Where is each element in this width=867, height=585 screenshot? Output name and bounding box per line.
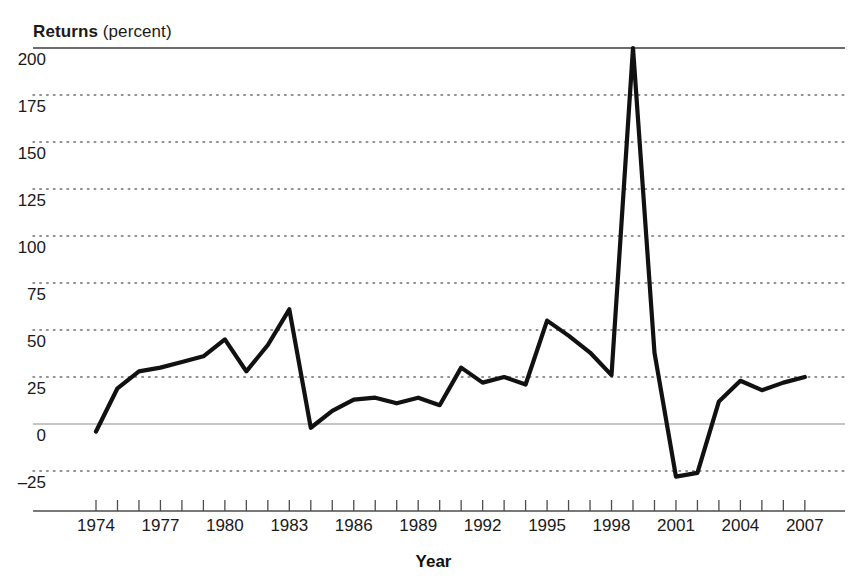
x-tick-label-2001: 2001 [646, 516, 706, 536]
y-tick-label-200: 200 [0, 50, 46, 70]
y-tick-label-150: 150 [0, 144, 46, 164]
plot-area [0, 0, 867, 585]
y-tick-label-75: 75 [0, 285, 46, 305]
data-line-group [96, 48, 805, 477]
y-tick-label--25: –25 [0, 473, 46, 493]
returns-series-line [96, 48, 805, 477]
x-axis-group [33, 500, 845, 511]
y-tick-label-100: 100 [0, 238, 46, 258]
x-tick-label-1986: 1986 [324, 516, 384, 536]
x-axis-title: Year [0, 552, 867, 572]
returns-line-chart: Returns (percent) 2001751501251007550250… [0, 0, 867, 585]
y-tick-label-0: 0 [0, 426, 46, 446]
y-tick-label-125: 125 [0, 191, 46, 211]
y-tick-label-175: 175 [0, 97, 46, 117]
x-tick-label-1998: 1998 [582, 516, 642, 536]
x-tick-label-1995: 1995 [517, 516, 577, 536]
x-tick-label-1980: 1980 [195, 516, 255, 536]
x-tick-label-1989: 1989 [388, 516, 448, 536]
gridlines-group [33, 48, 845, 471]
x-tick-label-1977: 1977 [130, 516, 190, 536]
x-tick-label-1992: 1992 [453, 516, 513, 536]
x-tick-label-1983: 1983 [259, 516, 319, 536]
y-tick-label-25: 25 [0, 379, 46, 399]
x-tick-label-2004: 2004 [710, 516, 770, 536]
y-tick-label-50: 50 [0, 332, 46, 352]
x-tick-label-2007: 2007 [775, 516, 835, 536]
x-tick-label-1974: 1974 [66, 516, 126, 536]
